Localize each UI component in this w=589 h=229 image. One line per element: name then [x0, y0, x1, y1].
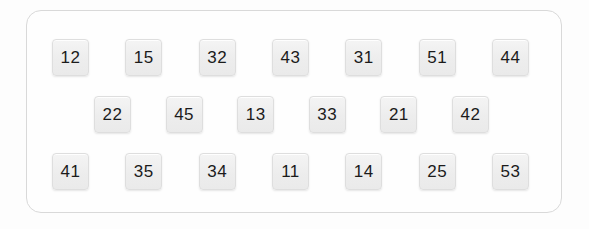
number-tile[interactable]: 35 [125, 153, 162, 190]
number-tile[interactable]: 53 [492, 153, 529, 190]
tile-row: 12 15 32 43 31 51 44 [52, 39, 529, 76]
number-tile[interactable]: 15 [125, 39, 162, 76]
number-tile[interactable]: 43 [272, 39, 309, 76]
number-tile[interactable]: 22 [94, 96, 131, 133]
tile-panel: 12 15 32 43 31 51 44 22 45 13 33 21 42 4… [26, 10, 562, 213]
number-tile[interactable]: 42 [452, 96, 489, 133]
number-tile[interactable]: 44 [492, 39, 529, 76]
tile-row: 41 35 34 11 14 25 53 [52, 153, 529, 190]
number-tile[interactable]: 25 [419, 153, 456, 190]
number-tile[interactable]: 41 [52, 153, 89, 190]
number-tile[interactable]: 33 [309, 96, 346, 133]
number-tile[interactable]: 51 [419, 39, 456, 76]
number-tile[interactable]: 21 [380, 96, 417, 133]
number-tile[interactable]: 11 [272, 153, 309, 190]
number-tile[interactable]: 45 [166, 96, 203, 133]
number-tile[interactable]: 31 [345, 39, 382, 76]
number-tile[interactable]: 12 [52, 39, 89, 76]
number-tile[interactable]: 14 [345, 153, 382, 190]
number-tile[interactable]: 32 [199, 39, 236, 76]
number-tile[interactable]: 34 [199, 153, 236, 190]
number-tile[interactable]: 13 [237, 96, 274, 133]
tile-row: 22 45 13 33 21 42 [94, 96, 489, 133]
